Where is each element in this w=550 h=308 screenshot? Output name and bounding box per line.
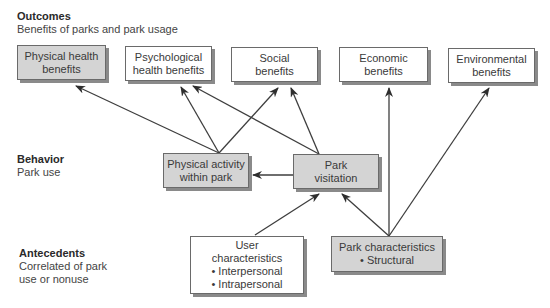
node-label-line1: Psychological (135, 51, 202, 64)
node-user-characteristics: User characteristics • Interpersonal • I… (190, 236, 304, 294)
node-label-line1: User (235, 239, 258, 252)
node-bullet-structural: • Structural (360, 254, 414, 267)
node-label-line2: benefits (364, 65, 403, 78)
node-label-line2: characteristics (212, 252, 282, 265)
node-park-visitation: Park visitation (293, 154, 379, 189)
node-social-benefits: Social benefits (231, 47, 318, 82)
node-environmental-benefits: Environmental benefits (448, 48, 535, 83)
node-bullet-intrapersonal: • Intrapersonal (211, 278, 282, 291)
node-label-line1: Environmental (456, 53, 526, 66)
edge-parkchar-to-environmental (389, 88, 489, 236)
node-label-line2: within park (180, 171, 233, 184)
node-label-line2: benefits (255, 65, 294, 78)
node-label-line2: health benefits (133, 64, 205, 77)
edge-visitation-to-psychological (193, 86, 319, 154)
edge-visitation-to-social (291, 88, 319, 154)
node-park-characteristics: Park characteristics • Structural (331, 236, 443, 272)
edge-user-to-visitation (255, 194, 319, 235)
edge-parkchar-to-visitation (342, 194, 389, 236)
node-label-line2: benefits (472, 66, 511, 79)
node-psychological-health-benefits: Psychological health benefits (125, 46, 212, 81)
node-physical-activity-within-park: Physical activity within park (163, 153, 249, 188)
node-physical-health-benefits: Physical health benefits (17, 45, 106, 80)
node-label-line1: Park (325, 159, 348, 172)
node-economic-benefits: Economic benefits (339, 47, 428, 82)
node-label-line1: Economic (359, 52, 407, 65)
node-label-line1: Social (260, 52, 290, 65)
node-label-line1: Physical health (25, 50, 99, 63)
node-label-line2: benefits (42, 63, 81, 76)
node-bullet-interpersonal: • Interpersonal (211, 265, 282, 278)
node-label-line1: Park characteristics (339, 241, 435, 254)
node-label-line2: visitation (315, 172, 358, 185)
node-label-line1: Physical activity (167, 158, 245, 171)
edge-activity-to-physical-health (76, 86, 219, 153)
edge-activity-to-social (219, 88, 278, 153)
